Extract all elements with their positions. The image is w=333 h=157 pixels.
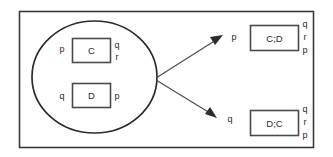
node-c-right-label-q: q [114, 40, 119, 50]
node-cd-right-label-p: p [302, 45, 307, 55]
node-c-label: C [88, 45, 95, 56]
node-d-left-label-q: q [59, 91, 64, 101]
node-c-right-label-r: r [116, 52, 119, 62]
node-cd-right-label-q: q [302, 19, 307, 29]
node-dc-label: D;C [266, 118, 283, 129]
arrow-upper-target-label: p [231, 32, 236, 42]
node-dc-right-label-r: r [304, 117, 307, 127]
arrow-lower-target-label: q [227, 114, 232, 124]
diagram-figure: C p q r D q p p q C;D q r p D;C q r p [0, 0, 333, 157]
node-d-right-label-p: p [114, 91, 119, 101]
node-dc-right-label-p: p [302, 130, 307, 140]
node-cd-right-label-r: r [304, 32, 307, 42]
node-cd-label: C;D [266, 33, 283, 44]
node-c-left-label-p: p [59, 44, 64, 54]
node-dc-right-label-q: q [302, 104, 307, 114]
node-d-label: D [88, 90, 95, 101]
